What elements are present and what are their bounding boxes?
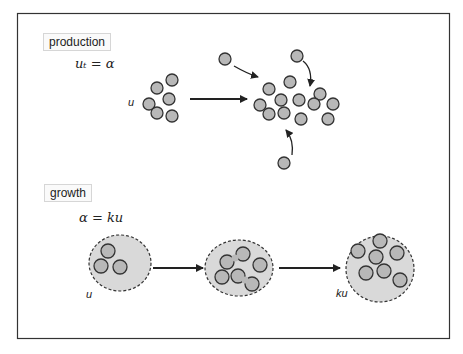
particle-after xyxy=(278,107,290,119)
cell-particle xyxy=(101,244,115,258)
growth-ku-label: ku xyxy=(336,287,348,299)
cell-particle xyxy=(113,260,127,274)
growth-u-label: u xyxy=(86,288,92,300)
production-equation: uₜ = α xyxy=(75,56,115,71)
cell-particle xyxy=(373,234,387,248)
particle-before xyxy=(151,107,163,119)
particle-after xyxy=(263,83,275,95)
cell-1 xyxy=(89,235,151,291)
particle-after xyxy=(327,98,339,110)
particle-before xyxy=(166,110,178,122)
particle-before xyxy=(166,74,178,86)
production-u-label: u xyxy=(128,96,134,108)
particle-after xyxy=(322,113,334,125)
particle-after xyxy=(263,108,275,120)
particle-after xyxy=(295,113,307,125)
particle-before xyxy=(163,93,175,105)
particle-after xyxy=(275,94,287,106)
particle-after xyxy=(284,76,296,88)
particle-incoming xyxy=(291,50,303,62)
particle-after xyxy=(293,94,305,106)
particle-incoming xyxy=(278,157,290,169)
cell-particle xyxy=(351,244,365,258)
cell-particle xyxy=(215,270,229,284)
diagram-canvas xyxy=(0,0,463,354)
cell-particle xyxy=(253,258,267,272)
growth-equation: α = ku xyxy=(79,210,123,225)
cell-particle xyxy=(377,264,391,278)
cell-particle xyxy=(359,266,373,280)
production-label: production xyxy=(43,33,111,51)
particle-after xyxy=(308,98,320,110)
particle-before xyxy=(151,82,163,94)
particle-incoming xyxy=(219,53,231,65)
cell-2 xyxy=(205,240,273,296)
cell-particle xyxy=(369,250,383,264)
particle-after xyxy=(254,99,266,111)
growth-label: growth xyxy=(44,184,92,202)
cell-particle xyxy=(390,246,404,260)
cell-particle xyxy=(94,259,108,273)
cell-particle xyxy=(393,273,407,287)
